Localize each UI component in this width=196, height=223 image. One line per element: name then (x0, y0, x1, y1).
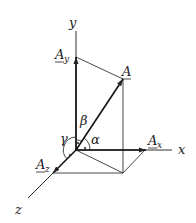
ay-to-a-line (76, 57, 123, 79)
beta-label: β (79, 113, 88, 128)
y-axis-label: y (68, 15, 77, 30)
origin-to-base-line (76, 150, 123, 173)
vector-diagram: y x z A A y A x A z α β γ (0, 0, 196, 223)
ay-subscript: y (63, 54, 70, 64)
ax-to-base-line (123, 150, 145, 173)
az-vector (53, 150, 76, 173)
beta-dot (77, 142, 79, 144)
a-label: A (121, 64, 131, 79)
gamma-dot (69, 154, 71, 156)
z-axis-label: z (14, 202, 22, 217)
az-subscript: z (44, 164, 50, 174)
ax-label: A (147, 133, 157, 148)
x-axis-label: x (178, 142, 186, 157)
gamma-label: γ (60, 131, 68, 146)
alpha-dot (84, 147, 86, 149)
ay-label: A (54, 47, 64, 62)
az-label: A (35, 157, 45, 172)
alpha-label: α (91, 132, 100, 147)
ax-subscript: x (157, 140, 162, 150)
